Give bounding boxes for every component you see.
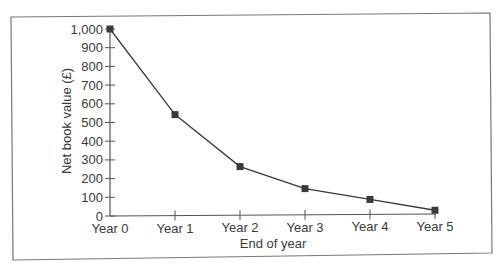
x-tick-label: Year 4 xyxy=(351,219,388,234)
data-point-marker xyxy=(237,163,244,170)
x-tick-label: Year 1 xyxy=(156,221,193,236)
y-tick-label: 700 xyxy=(81,78,103,93)
y-tick-label: 600 xyxy=(81,96,103,111)
y-tick-label: 500 xyxy=(81,115,103,130)
y-axis-title: Net book value (£) xyxy=(59,68,74,174)
data-point-marker xyxy=(432,207,439,214)
y-tick-label: 200 xyxy=(81,171,103,186)
y-tick-label: 300 xyxy=(81,152,103,167)
y-tick-label: 1,000 xyxy=(70,22,103,37)
y-tick-label: 900 xyxy=(81,40,103,55)
x-tick-label: Year 0 xyxy=(91,221,128,236)
y-tick-label: 800 xyxy=(81,59,103,74)
y-tick-label: 400 xyxy=(81,134,103,149)
x-tick-label: Year 5 xyxy=(416,219,453,234)
data-point-marker xyxy=(107,26,114,33)
x-tick-label: Year 3 xyxy=(286,220,323,235)
line-chart: 01002003004005006007008009001,000 Year 0… xyxy=(0,0,498,267)
data-point-marker xyxy=(367,196,374,203)
data-point-marker xyxy=(302,185,309,192)
y-tick-label: 100 xyxy=(81,190,103,205)
x-axis-title: End of year xyxy=(240,236,307,251)
data-point-marker xyxy=(172,111,179,118)
x-tick-label: Year 2 xyxy=(221,220,258,235)
